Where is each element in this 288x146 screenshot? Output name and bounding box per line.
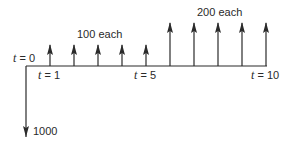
inflow-group-100: [47, 44, 149, 66]
label-t5: t = 5: [134, 69, 156, 81]
inflow-group-200: [167, 22, 269, 66]
label-outflow-1000: 1000: [33, 126, 57, 137]
label-100-each: 100 each: [77, 29, 122, 40]
cash-flow-diagram: t = 0 t = 1 t = 5 t = 10 100 each 200 ea…: [0, 0, 288, 146]
label-200-each: 200 each: [197, 7, 242, 18]
label-t10: t = 10: [251, 69, 279, 81]
label-t0: t = 0: [13, 52, 35, 64]
label-t1: t = 1: [38, 69, 60, 81]
